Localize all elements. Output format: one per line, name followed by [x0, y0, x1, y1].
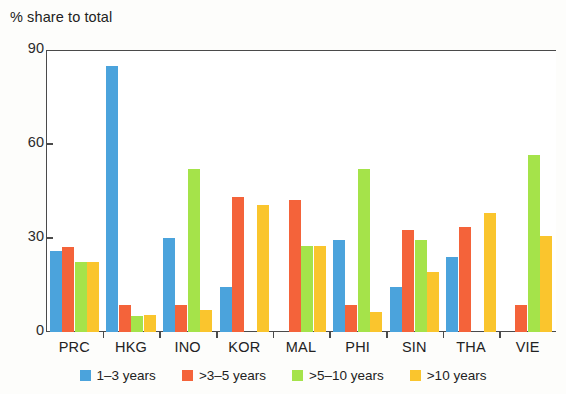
- bar-group-ino: [163, 50, 213, 332]
- bar: [446, 257, 458, 332]
- bar: [232, 197, 244, 332]
- x-axis-category-label-ino: INO: [159, 339, 216, 355]
- bar-group-mal: [276, 50, 326, 332]
- x-axis-category-label-vie: VIE: [499, 339, 556, 355]
- bar: [314, 246, 326, 332]
- bar: [415, 240, 427, 332]
- bar-chart-figure: % share to total 0306090 PRCHKGINOKORMAL…: [0, 0, 566, 394]
- legend-swatch-icon: [410, 370, 421, 381]
- bar: [289, 200, 301, 332]
- legend-label: >3–5 years: [199, 368, 266, 383]
- legend-swatch-icon: [182, 370, 193, 381]
- legend-label: 1–3 years: [97, 368, 156, 383]
- plot-area: [46, 50, 556, 332]
- bar: [220, 287, 232, 332]
- bar: [528, 155, 540, 332]
- x-axis-tick-mark: [216, 332, 218, 338]
- bar: [540, 236, 552, 332]
- bar-group-vie: [503, 50, 553, 332]
- bar-group-hkg: [106, 50, 156, 332]
- bar: [459, 227, 471, 332]
- bar: [358, 169, 370, 332]
- bar: [144, 315, 156, 332]
- bar: [87, 262, 99, 333]
- bar-group-phi: [333, 50, 383, 332]
- x-axis-tick-mark: [386, 332, 388, 338]
- x-axis-category-label-phi: PHI: [329, 339, 386, 355]
- legend-label: >5–10 years: [309, 368, 384, 383]
- x-axis-tick-mark: [499, 332, 501, 338]
- bar: [62, 247, 74, 332]
- bar: [163, 238, 175, 332]
- bar: [175, 305, 187, 332]
- chart-legend: 1–3 years>3–5 years>5–10 years>10 years: [0, 368, 566, 383]
- chart-title: % share to total: [10, 9, 112, 25]
- bar: [484, 213, 496, 332]
- legend-item-2: >5–10 years: [292, 368, 384, 383]
- legend-swatch-icon: [292, 370, 303, 381]
- bar-group-tha: [446, 50, 496, 332]
- bar-group-prc: [50, 50, 100, 332]
- bar: [370, 312, 382, 332]
- bar: [390, 287, 402, 332]
- legend-item-3: >10 years: [410, 368, 487, 383]
- legend-swatch-icon: [80, 370, 91, 381]
- legend-label: >10 years: [427, 368, 487, 383]
- x-axis-tick-mark: [273, 332, 275, 338]
- x-axis-tick-mark: [103, 332, 105, 338]
- bar: [188, 169, 200, 332]
- x-axis-category-label-kor: KOR: [216, 339, 273, 355]
- legend-item-0: 1–3 years: [80, 368, 156, 383]
- bar: [200, 310, 212, 332]
- x-axis-category-label-sin: SIN: [386, 339, 443, 355]
- bar: [119, 305, 131, 332]
- bar: [50, 251, 62, 332]
- x-axis-tick-mark: [329, 332, 331, 338]
- bar: [106, 66, 118, 332]
- bar-group-sin: [390, 50, 440, 332]
- x-axis-category-label-tha: THA: [443, 339, 500, 355]
- bar: [427, 272, 439, 332]
- bar: [402, 230, 414, 332]
- bar: [333, 240, 345, 332]
- bar: [131, 316, 143, 332]
- x-axis-category-label-prc: PRC: [46, 339, 103, 355]
- x-axis-tick-mark: [159, 332, 161, 338]
- bar: [257, 205, 269, 332]
- x-axis-tick-mark: [443, 332, 445, 338]
- legend-item-1: >3–5 years: [182, 368, 266, 383]
- x-axis-category-label-mal: MAL: [273, 339, 330, 355]
- bar: [301, 246, 313, 332]
- bar: [515, 305, 527, 332]
- bar: [75, 262, 87, 333]
- x-axis-category-label-hkg: HKG: [103, 339, 160, 355]
- bar: [345, 305, 357, 332]
- bar-group-kor: [220, 50, 270, 332]
